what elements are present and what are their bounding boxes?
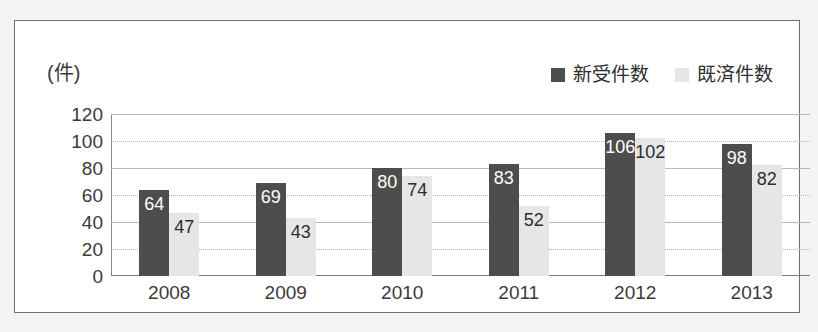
- bar-value-label: 52: [519, 211, 549, 229]
- bar-2010-series-2: 74: [402, 176, 432, 276]
- gridline-60: [111, 195, 810, 196]
- x-tick-label-2013: 2013: [731, 283, 773, 302]
- chart-screenshot: (件) 新受件数 既済件数 120100806040200 6447694380…: [0, 0, 818, 332]
- bar-2009-series-2: 43: [286, 218, 316, 276]
- gridline-100: [111, 141, 810, 142]
- gridline-20: [111, 249, 810, 250]
- bar-2013-series-1: 98: [722, 144, 752, 276]
- bar-2011-series-1: 83: [489, 164, 519, 276]
- x-tick-label-2009: 2009: [265, 283, 307, 302]
- chart-frame: (件) 新受件数 既済件数 120100806040200 6447694380…: [14, 20, 800, 313]
- bar-value-label: 64: [139, 195, 169, 213]
- bar-value-label: 98: [722, 149, 752, 167]
- gridline-40: [111, 222, 810, 223]
- y-tick-label-120: 120: [43, 105, 103, 124]
- bar-2008-series-2: 47: [169, 213, 199, 276]
- plot-area: 64476943807483521061029882: [111, 114, 810, 276]
- bar-value-label: 69: [256, 188, 286, 206]
- legend-swatch-light-icon: [675, 68, 689, 82]
- bar-value-label: 102: [635, 143, 665, 161]
- y-axis-tick-labels: 120100806040200: [37, 114, 103, 276]
- bar-value-label: 47: [169, 218, 199, 236]
- bar-2012-series-2: 102: [635, 138, 665, 276]
- y-tick-label-100: 100: [43, 132, 103, 151]
- bar-2008-series-1: 64: [139, 190, 169, 276]
- bar-value-label: 43: [286, 223, 316, 241]
- legend-swatch-dark-icon: [551, 68, 565, 82]
- y-tick-label-80: 80: [43, 159, 103, 178]
- x-axis-tick-labels: 200820092010201120122013: [111, 283, 810, 311]
- x-tick-label-2010: 2010: [381, 283, 423, 302]
- bar-value-label: 83: [489, 169, 519, 187]
- bar-2011-series-2: 52: [519, 206, 549, 276]
- y-axis-unit-label: (件): [47, 63, 80, 83]
- x-tick-label-2011: 2011: [498, 283, 539, 302]
- bar-2009-series-1: 69: [256, 183, 286, 276]
- legend-item-shinju-kensu: 新受件数: [551, 65, 649, 84]
- x-tick-label-2012: 2012: [614, 283, 656, 302]
- bar-value-label: 80: [372, 173, 402, 191]
- bar-value-label: 82: [752, 170, 782, 188]
- bar-2010-series-1: 80: [372, 168, 402, 276]
- y-tick-label-0: 0: [43, 267, 103, 286]
- chart-legend: 新受件数 既済件数: [551, 65, 773, 84]
- y-tick-label-20: 20: [43, 240, 103, 259]
- bar-value-label: 106: [605, 138, 635, 156]
- bar-value-label: 74: [402, 181, 432, 199]
- bar-2012-series-1: 106: [605, 133, 635, 276]
- gridline-120: [111, 114, 810, 115]
- gridline-80: [111, 168, 810, 169]
- x-tick-label-2008: 2008: [148, 283, 190, 302]
- x-axis-line: [111, 275, 810, 277]
- y-tick-label-40: 40: [43, 213, 103, 232]
- y-tick-label-60: 60: [43, 186, 103, 205]
- bar-2013-series-2: 82: [752, 165, 782, 276]
- legend-item-kisai-kensu: 既済件数: [675, 65, 773, 84]
- legend-label-series-2: 既済件数: [697, 65, 773, 84]
- legend-label-series-1: 新受件数: [573, 65, 649, 84]
